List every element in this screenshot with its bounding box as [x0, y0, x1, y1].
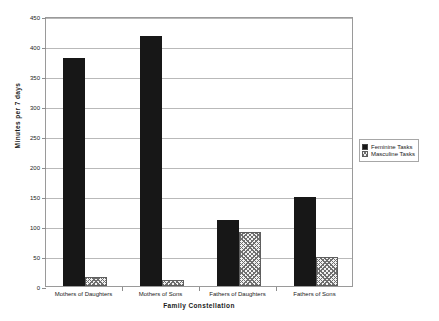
- bar: [85, 277, 107, 286]
- bar: [140, 36, 162, 286]
- bar: [316, 257, 338, 286]
- tick-mark: [42, 228, 46, 229]
- x-axis-tick-label: Fathers of Daughters: [209, 291, 265, 297]
- y-axis-tick-label: 200: [30, 165, 40, 171]
- x-axis-tick-label: Mothers of Daughters: [55, 291, 113, 297]
- legend-item: Masculine Tasks: [362, 151, 415, 157]
- tick-mark: [42, 48, 46, 49]
- legend-swatch-feminine-icon: [362, 144, 368, 150]
- legend-swatch-masculine-icon: [362, 151, 368, 157]
- x-axis-tick: [122, 287, 123, 291]
- y-axis-tick-label: 250: [30, 135, 40, 141]
- bar: [63, 58, 85, 286]
- x-axis-tick: [276, 287, 277, 291]
- tick-mark: [42, 108, 46, 109]
- tick-mark: [42, 78, 46, 79]
- y-axis-tick-label: 300: [30, 105, 40, 111]
- y-axis-tick-label: 0: [37, 285, 40, 291]
- y-axis-title: Minutes per 7 days: [14, 61, 21, 171]
- legend-label-masculine: Masculine Tasks: [371, 151, 415, 157]
- gridline: [46, 108, 352, 109]
- bar: [217, 220, 239, 286]
- gridline: [46, 78, 352, 79]
- y-axis-tick-label: 100: [30, 225, 40, 231]
- plot-area: 050100150200250300350400450: [45, 17, 353, 287]
- bar-chart: Minutes per 7 days 050100150200250300350…: [0, 0, 439, 321]
- gridline: [46, 48, 352, 49]
- gridline: [46, 138, 352, 139]
- y-axis-tick-label: 350: [30, 75, 40, 81]
- x-axis-tick: [199, 287, 200, 291]
- legend-label-feminine: Feminine Tasks: [371, 144, 413, 150]
- chart-legend: Feminine Tasks Masculine Tasks: [359, 139, 419, 162]
- bar: [294, 197, 316, 286]
- tick-mark: [42, 138, 46, 139]
- tick-mark: [42, 168, 46, 169]
- bar: [162, 280, 184, 286]
- x-axis-tick-label: Mothers of Sons: [139, 291, 183, 297]
- tick-mark: [42, 198, 46, 199]
- gridline: [46, 18, 352, 19]
- tick-mark: [42, 18, 46, 19]
- y-axis-tick-label: 450: [30, 15, 40, 21]
- legend-item: Feminine Tasks: [362, 144, 415, 150]
- x-axis-tick-label: Fathers of Sons: [293, 291, 335, 297]
- tick-mark: [42, 288, 46, 289]
- gridline: [46, 168, 352, 169]
- y-axis-tick-label: 150: [30, 195, 40, 201]
- x-axis-title: Family Constellation: [45, 302, 353, 309]
- tick-mark: [42, 258, 46, 259]
- y-axis-tick-label: 400: [30, 45, 40, 51]
- y-axis-tick-label: 50: [33, 255, 40, 261]
- bar: [239, 232, 261, 286]
